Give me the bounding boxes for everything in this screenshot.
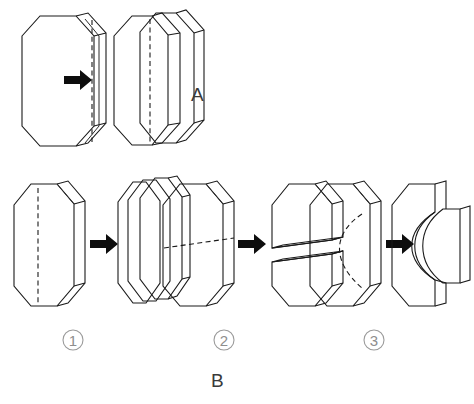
upper-half-bevel-edge — [315, 184, 332, 204]
result-slab-3 — [118, 182, 160, 303]
step2-source-block — [163, 181, 234, 306]
concave-body-upper-side — [435, 181, 446, 209]
step3-result-lens — [423, 206, 470, 283]
block-front-face — [163, 184, 223, 306]
block-top-edge — [223, 201, 234, 204]
block-top-edge — [370, 201, 381, 204]
right-arrow-icon — [238, 234, 266, 254]
step3-source-block — [310, 181, 381, 306]
upper-half-top-edge — [332, 201, 343, 204]
upper-half-cut-face — [272, 237, 343, 248]
block-bevel-edge — [206, 184, 223, 204]
block-top-edge — [94, 33, 106, 36]
step-3-marker: 3 — [364, 330, 384, 350]
concave-body-lower-side — [435, 280, 446, 306]
panel-b-step-3: 3 — [310, 181, 470, 350]
result-slab-back — [140, 13, 194, 143]
lens-piece-side — [460, 206, 470, 283]
step2-result-lower — [272, 251, 343, 306]
concave-inner-curve — [415, 212, 435, 280]
panel-a-arrow — [64, 70, 92, 90]
step-2-marker: 2 — [214, 330, 234, 350]
block-top-edge — [74, 201, 85, 204]
lower-half-side-face — [315, 251, 343, 306]
result-slab-1-top-edge — [182, 195, 190, 197]
panel-b-step-1: 1 — [14, 176, 190, 350]
right-arrow-icon — [64, 70, 92, 90]
sectioning-diagram: A — [0, 0, 474, 404]
panel-a-result — [114, 10, 204, 145]
step-marker-number: 2 — [220, 332, 228, 349]
panel-b-label: B — [211, 370, 224, 391]
step-marker-number: 1 — [69, 332, 77, 349]
step1-source-block — [14, 181, 85, 306]
step-marker-number: 3 — [370, 332, 378, 349]
block-bevel-edge — [57, 184, 74, 204]
upper-half-side-face — [315, 181, 343, 240]
result-slab-2 — [128, 180, 170, 301]
lens-piece-face — [423, 209, 460, 283]
block-front-face — [14, 184, 74, 306]
step1-result-slabs — [118, 176, 190, 303]
result-back-top-edge — [194, 30, 204, 33]
step-1-marker: 1 — [63, 330, 83, 350]
result-slab-front — [114, 16, 168, 145]
step2-result-upper — [272, 181, 343, 248]
panel-a-label: A — [191, 84, 204, 105]
lower-half-front-face — [272, 254, 332, 306]
result-front-top-edge — [168, 33, 180, 35]
panel-a: A — [22, 10, 204, 146]
right-arrow-icon — [90, 234, 118, 254]
panel-b: 1 — [14, 176, 470, 391]
result-slab-1 — [140, 178, 182, 299]
block-bevel-edge — [353, 184, 370, 204]
right-arrow-icon — [386, 234, 414, 254]
